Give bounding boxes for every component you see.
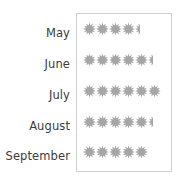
sun-icon <box>135 22 140 36</box>
pictograph-row-august <box>83 115 161 129</box>
sun-icon <box>96 22 109 36</box>
sun-symbol <box>109 53 122 67</box>
sun-icon <box>109 22 122 36</box>
sun-icon <box>96 145 109 159</box>
sun-symbol <box>109 84 122 98</box>
sun-icon <box>96 84 109 98</box>
sun-symbol <box>96 53 109 67</box>
sun-icon <box>135 145 148 159</box>
sun-icon <box>122 115 135 129</box>
sun-icon <box>83 145 96 159</box>
sun-icon <box>122 53 135 67</box>
sun-symbol <box>122 22 135 36</box>
sun-symbol <box>83 115 96 129</box>
sun-symbol <box>109 22 122 36</box>
sun-symbol <box>83 84 96 98</box>
sun-symbol <box>83 22 96 36</box>
sun-icon <box>109 84 122 98</box>
sun-icon <box>148 115 153 129</box>
category-label-may: May <box>0 27 70 39</box>
sun-icon <box>122 145 135 159</box>
sun-icon <box>96 115 109 129</box>
sun-icon <box>83 115 96 129</box>
sun-symbol <box>96 84 109 98</box>
sun-icon <box>135 115 148 129</box>
half-sun-symbol <box>148 53 161 67</box>
pictograph-row-june <box>83 53 161 67</box>
category-label-september: September <box>0 150 70 162</box>
plot-area <box>76 13 172 172</box>
half-sun-symbol <box>135 22 148 36</box>
sun-icon <box>109 145 122 159</box>
sun-icon <box>83 22 96 36</box>
sun-icon <box>135 84 148 98</box>
sun-symbol <box>109 115 122 129</box>
category-label-august: August <box>0 120 70 132</box>
half-sun-symbol <box>148 115 161 129</box>
sun-symbol <box>135 53 148 67</box>
category-axis-labels: May June July August September <box>0 0 74 185</box>
sun-symbol <box>83 53 96 67</box>
sun-symbol <box>135 145 148 159</box>
sun-symbol <box>83 145 96 159</box>
sun-symbol <box>96 22 109 36</box>
pictograph-row-july <box>83 84 161 98</box>
sun-icon <box>109 53 122 67</box>
sun-symbol <box>122 115 135 129</box>
sun-icon <box>122 84 135 98</box>
sun-icon <box>96 53 109 67</box>
sun-symbol <box>135 84 148 98</box>
sun-icon <box>148 53 153 67</box>
pictograph-row-may <box>83 22 148 36</box>
sun-symbol <box>148 84 161 98</box>
sun-icon <box>122 22 135 36</box>
category-label-june: June <box>0 58 70 70</box>
sun-symbol <box>122 145 135 159</box>
sun-symbol <box>96 145 109 159</box>
sun-symbol <box>122 84 135 98</box>
pictograph-row-september <box>83 145 148 159</box>
sun-icon <box>83 53 96 67</box>
sun-symbol <box>96 115 109 129</box>
sun-symbol <box>122 53 135 67</box>
sun-icon <box>148 84 161 98</box>
sun-symbol <box>135 115 148 129</box>
pictograph-chart: May June July August September <box>0 0 180 185</box>
sun-symbol <box>109 145 122 159</box>
sun-icon <box>109 115 122 129</box>
sun-icon <box>135 53 148 67</box>
sun-icon <box>83 84 96 98</box>
category-label-july: July <box>0 89 70 101</box>
